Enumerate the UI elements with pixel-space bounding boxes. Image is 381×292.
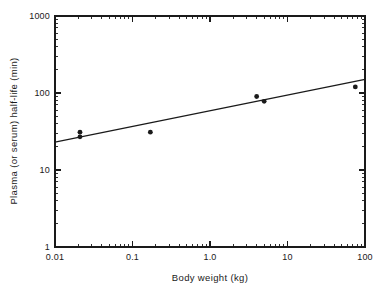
figure-container: 0.010.11.0101001101001000 Body weight (k… (0, 0, 381, 292)
chart-background (0, 0, 381, 292)
x-tick-label: 100 (357, 252, 373, 262)
x-tick-label: 0.1 (126, 252, 139, 262)
y-tick-label: 100 (34, 88, 50, 98)
x-tick-label: 1.0 (203, 252, 216, 262)
y-tick-label: 1 (45, 242, 50, 252)
y-axis-title: Plasma (or serum) half-life (min) (8, 57, 19, 204)
x-axis-title: Body weight (kg) (172, 272, 248, 283)
x-tick-label: 0.01 (46, 252, 64, 262)
data-point-marker (148, 130, 153, 135)
data-point-marker (254, 94, 259, 99)
y-tick-label: 1000 (29, 11, 50, 21)
log-log-scatter-chart: 0.010.11.0101001101001000 Body weight (k… (0, 0, 381, 292)
data-point-marker (262, 99, 267, 104)
data-point-marker (353, 85, 358, 90)
data-point-marker (78, 130, 83, 135)
x-tick-label: 10 (282, 252, 292, 262)
data-point-marker (78, 134, 83, 139)
y-tick-label: 10 (40, 165, 50, 175)
